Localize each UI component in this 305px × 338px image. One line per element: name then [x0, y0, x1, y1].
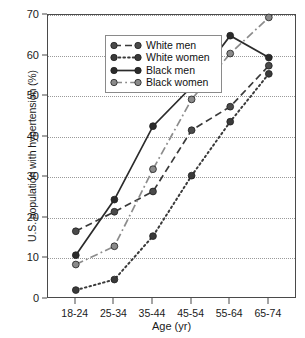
- data-point: [72, 261, 79, 268]
- legend-item[interactable]: Black women: [110, 77, 217, 90]
- data-point: [227, 50, 234, 57]
- data-point: [72, 252, 79, 259]
- y-axis-ticks: 010203040506070: [0, 0, 47, 284]
- x-tick-mark: [152, 298, 153, 304]
- y-tick-label: 70: [27, 8, 39, 20]
- legend-label: Black women: [146, 77, 208, 88]
- data-point: [227, 103, 234, 110]
- data-point: [265, 14, 272, 21]
- data-point: [150, 166, 157, 173]
- plot-area: White men White women Black men Black wo…: [47, 14, 296, 298]
- legend-item[interactable]: White men: [110, 39, 217, 52]
- data-point: [188, 127, 195, 134]
- x-tick-mark: [229, 298, 230, 304]
- data-point: [265, 62, 272, 69]
- data-point: [265, 70, 272, 77]
- y-tick-label: 20: [27, 211, 39, 223]
- data-point: [72, 228, 79, 235]
- y-tick-label: 50: [27, 89, 39, 101]
- legend-label: White men: [146, 40, 196, 51]
- legend-label: Black men: [146, 65, 195, 76]
- x-tick-label: 45-54: [177, 307, 204, 319]
- x-tick-label: 65-74: [254, 307, 281, 319]
- series-white-women: [72, 70, 272, 293]
- data-point: [72, 287, 79, 294]
- x-axis-title: Age (yr): [47, 320, 296, 332]
- data-point: [111, 276, 118, 283]
- data-point: [150, 233, 157, 240]
- x-tick-mark: [74, 298, 75, 304]
- x-tick-label: 18-24: [61, 307, 88, 319]
- data-point: [150, 188, 157, 195]
- legend-swatch-white-women: [110, 52, 142, 63]
- y-tick-label: 40: [27, 130, 39, 142]
- y-tick-label: 30: [27, 170, 39, 182]
- data-point: [265, 54, 272, 61]
- data-point: [227, 118, 234, 125]
- x-tick-label: 55-64: [216, 307, 243, 319]
- x-tick-mark: [267, 298, 268, 304]
- data-point: [227, 32, 234, 39]
- legend-swatch-white-men: [110, 40, 142, 51]
- x-tick-label: 35-44: [139, 307, 166, 319]
- data-point: [188, 172, 195, 179]
- data-point: [111, 196, 118, 203]
- x-tick-mark: [113, 298, 114, 304]
- legend-swatch-black-women: [110, 77, 142, 88]
- x-axis-ticks: 18-2425-3435-4445-5455-6465-74: [47, 298, 296, 338]
- data-point: [150, 123, 157, 130]
- data-point: [111, 243, 118, 250]
- legend-item[interactable]: White women: [110, 52, 217, 65]
- y-tick-label: 10: [27, 251, 39, 263]
- x-tick-label: 25-34: [100, 307, 127, 319]
- data-point: [111, 208, 118, 215]
- data-point: [188, 96, 195, 103]
- x-tick-mark: [190, 298, 191, 304]
- legend-swatch-black-men: [110, 65, 142, 76]
- y-tick-label: 60: [27, 49, 39, 61]
- legend-label: White women: [146, 52, 210, 63]
- y-tick-label: 0: [33, 292, 39, 304]
- legend-item[interactable]: Black men: [110, 64, 217, 77]
- chart-figure: U.S. population with hypertension (%) 01…: [0, 0, 305, 338]
- chart-legend: White men White women Black men Black wo…: [105, 35, 222, 93]
